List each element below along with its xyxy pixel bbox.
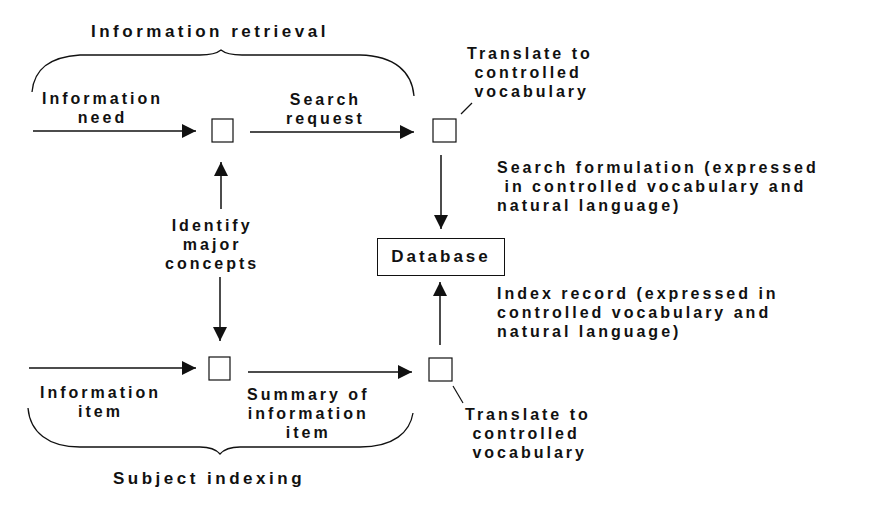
title-information-retrieval: Information retrieval [91, 22, 329, 41]
label-translate-top: Translate to controlled vocabulary [467, 44, 593, 101]
label-search-request: Search request [286, 90, 365, 128]
label-search-formulation: Search formulation (expressed in control… [497, 158, 819, 215]
label-identify-concepts: Identify major concepts [165, 216, 259, 273]
node-top-right [433, 119, 456, 142]
label-information-item: Information item [40, 383, 161, 421]
title-subject-indexing: Subject indexing [113, 469, 305, 488]
node-top-left [212, 119, 233, 142]
node-bottom-left [209, 357, 230, 380]
label-summary: Summary of information item [247, 385, 369, 442]
label-information-need: Information need [42, 89, 163, 127]
node-bottom-right [429, 358, 452, 381]
node-database: Database [377, 238, 505, 276]
label-index-record: Index record (expressed in controlled vo… [497, 284, 779, 341]
label-translate-bottom: Translate to controlled vocabulary [465, 405, 591, 462]
